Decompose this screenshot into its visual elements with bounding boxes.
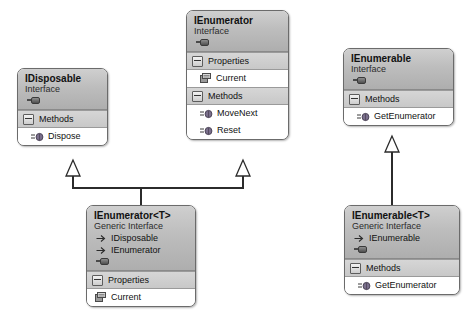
- collapse-icon[interactable]: [349, 94, 360, 105]
- base-type-row[interactable]: IDisposable: [94, 232, 189, 244]
- class-box-ienumerable[interactable]: IEnumerable Interface Methods GetEnumera…: [343, 48, 454, 126]
- ienumeratorT-handle-row: [94, 256, 189, 267]
- arrowhead-ienumerable: [385, 136, 399, 152]
- method-icon: [358, 281, 371, 291]
- ienumerableT-handle-row: [352, 244, 453, 255]
- base-type-row[interactable]: IEnumerable: [352, 232, 453, 244]
- member-label: Dispose: [48, 130, 81, 143]
- arrowhead-ienumerator: [236, 160, 250, 176]
- member-row[interactable]: Dispose: [18, 128, 107, 145]
- ienumerator-stereotype: Interface: [194, 26, 282, 37]
- ienumeratorT-properties-section[interactable]: Properties: [87, 271, 195, 289]
- class-box-idisposable[interactable]: IDisposable Interface Methods Dispose: [17, 68, 108, 146]
- ienumerable-stereotype: Interface: [351, 64, 447, 75]
- member-label: GetEnumerator: [375, 279, 437, 292]
- idisposable-handle-row: [25, 95, 101, 106]
- base-type-row[interactable]: IEnumerator: [94, 244, 189, 256]
- ienumerableT-methods-section[interactable]: Methods: [345, 259, 459, 277]
- idisposable-title: IDisposable: [25, 73, 101, 84]
- property-icon: [200, 73, 212, 84]
- section-label: Properties: [108, 274, 149, 286]
- method-icon: [200, 126, 213, 136]
- ienumerableT-header: IEnumerable<T> Generic Interface IEnumer…: [345, 206, 459, 259]
- interface-handle-icon: [27, 97, 40, 104]
- member-row[interactable]: MoveNext: [187, 105, 288, 122]
- idisposable-methods-section[interactable]: Methods: [18, 110, 107, 128]
- ienumerableT-stereotype: Generic Interface: [352, 221, 453, 232]
- collapse-icon[interactable]: [92, 275, 103, 286]
- method-icon: [357, 112, 370, 122]
- base-type-label: IEnumerator: [111, 244, 161, 256]
- class-box-ienumerator[interactable]: IEnumerator Interface Properties Current…: [186, 10, 289, 140]
- base-type-label: IEnumerable: [369, 232, 420, 244]
- member-label: Current: [216, 72, 246, 85]
- member-row[interactable]: Reset: [187, 122, 288, 139]
- ienumerator-properties-section[interactable]: Properties: [187, 52, 288, 70]
- class-box-ienumerator-generic[interactable]: IEnumerator<T> Generic Interface IDispos…: [86, 205, 196, 307]
- collapse-icon[interactable]: [192, 56, 203, 67]
- class-box-ienumerable-generic[interactable]: IEnumerable<T> Generic Interface IEnumer…: [344, 205, 460, 295]
- property-icon: [95, 292, 107, 303]
- ienumeratorT-stereotype: Generic Interface: [94, 221, 189, 232]
- member-row[interactable]: GetEnumerator: [344, 108, 453, 125]
- member-label: MoveNext: [217, 107, 258, 120]
- diagram-canvas: IDisposable Interface Methods Dispose IE: [0, 0, 472, 329]
- method-icon: [200, 109, 213, 119]
- connector-ienumeratorT-idisposable: [73, 176, 141, 188]
- method-icon: [31, 132, 44, 142]
- ienumeratorT-title: IEnumerator<T>: [94, 210, 189, 221]
- member-row[interactable]: Current: [187, 70, 288, 87]
- base-type-arrow-icon: [96, 234, 107, 243]
- connector-ienumeratorT-ienumerator: [141, 176, 243, 188]
- section-label: Methods: [366, 262, 401, 274]
- member-row[interactable]: Current: [87, 289, 195, 306]
- section-label: Methods: [365, 93, 400, 105]
- ienumerator-title: IEnumerator: [194, 15, 282, 26]
- section-label: Methods: [39, 113, 74, 125]
- collapse-icon[interactable]: [23, 114, 34, 125]
- ienumerable-methods-section[interactable]: Methods: [344, 90, 453, 108]
- arrowhead-idisposable: [66, 160, 80, 176]
- collapse-icon[interactable]: [192, 91, 203, 102]
- ienumerableT-title: IEnumerable<T>: [352, 210, 453, 221]
- base-type-arrow-icon: [96, 246, 107, 255]
- ienumerator-handle-row: [194, 37, 282, 48]
- ienumerable-header: IEnumerable Interface: [344, 49, 453, 90]
- ienumerable-title: IEnumerable: [351, 53, 447, 64]
- idisposable-stereotype: Interface: [25, 84, 101, 95]
- ienumerator-header: IEnumerator Interface: [187, 11, 288, 52]
- collapse-icon[interactable]: [350, 263, 361, 274]
- base-type-label: IDisposable: [111, 232, 158, 244]
- ienumeratorT-header: IEnumerator<T> Generic Interface IDispos…: [87, 206, 195, 271]
- interface-handle-icon: [196, 39, 209, 46]
- idisposable-header: IDisposable Interface: [18, 69, 107, 110]
- section-label: Methods: [208, 90, 243, 102]
- member-label: Reset: [217, 124, 241, 137]
- ienumerable-handle-row: [351, 75, 447, 86]
- member-label: Current: [111, 291, 141, 304]
- interface-handle-icon: [353, 77, 366, 84]
- member-label: GetEnumerator: [374, 110, 436, 123]
- member-row[interactable]: GetEnumerator: [345, 277, 459, 294]
- interface-handle-icon: [96, 258, 109, 265]
- ienumerator-methods-section[interactable]: Methods: [187, 87, 288, 105]
- base-type-arrow-icon: [354, 234, 365, 243]
- section-label: Properties: [208, 55, 249, 67]
- interface-handle-icon: [354, 246, 367, 253]
